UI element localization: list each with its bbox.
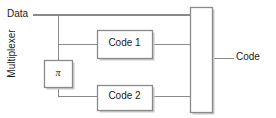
block-label-code2: Code 2 bbox=[97, 91, 152, 101]
block-multiplexer bbox=[191, 8, 215, 115]
block-label-multiplexer: Multiplexer bbox=[6, 29, 17, 77]
block-label-interleaver-pi: π bbox=[44, 68, 72, 78]
input-label-data: Data bbox=[7, 9, 28, 19]
diagram-canvas: Data Code Code 1 Code 2 π Multiplexer bbox=[0, 0, 276, 118]
block-label-code1: Code 1 bbox=[97, 38, 152, 48]
output-label-code: Code bbox=[236, 52, 260, 62]
multiplexer-outline bbox=[191, 8, 213, 113]
